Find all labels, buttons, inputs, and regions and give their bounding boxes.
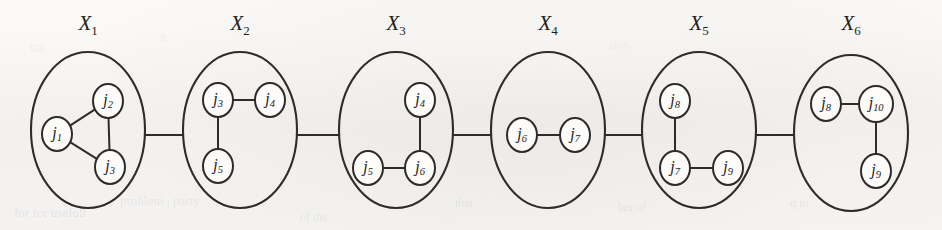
node-x2-j3 (203, 83, 233, 117)
node-x6-j9 (861, 154, 891, 188)
node-x1-j2 (93, 84, 123, 118)
cluster-label-x6: X6 (841, 13, 860, 37)
cluster-label-x1: X1 (78, 13, 97, 37)
edge-x1-n1-n2 (70, 109, 96, 126)
node-x5-j7 (660, 151, 690, 185)
node-x5-j9 (713, 151, 743, 185)
node-x1-j3 (95, 150, 125, 184)
cluster-ellipse-x6 (794, 55, 908, 211)
node-x2-j4 (255, 83, 285, 117)
cluster-label-x2: X2 (230, 13, 249, 37)
node-x3-j4 (405, 83, 435, 117)
cluster-label-x4: X4 (538, 13, 557, 37)
edge-x1-n2-n3 (109, 118, 110, 150)
cluster-label-x5: X5 (689, 13, 708, 37)
node-x1-j1 (42, 117, 72, 151)
figure-canvas (0, 0, 942, 230)
cluster-label-x3: X3 (386, 13, 405, 37)
node-x3-j5 (353, 151, 383, 185)
cluster-ellipse-group (31, 52, 908, 211)
junction-tree-figure: j1j2j3X1j3j4j5X2j4j5j6X3j6j7X4j8j7j9X5j8… (0, 0, 942, 230)
node-x2-j5 (203, 149, 233, 183)
cluster-ellipse-x3 (339, 52, 453, 208)
edge-x1-n1-n3 (70, 142, 98, 159)
node-x6-j10 (859, 86, 893, 122)
node-x6-j8 (811, 87, 841, 121)
node-x3-j6 (405, 151, 435, 185)
node-x5-j8 (660, 84, 690, 118)
cluster-ellipse-x2 (183, 52, 297, 208)
cluster-ellipse-x5 (642, 52, 756, 208)
node-x4-j6 (507, 118, 537, 152)
node-x4-j7 (560, 118, 590, 152)
